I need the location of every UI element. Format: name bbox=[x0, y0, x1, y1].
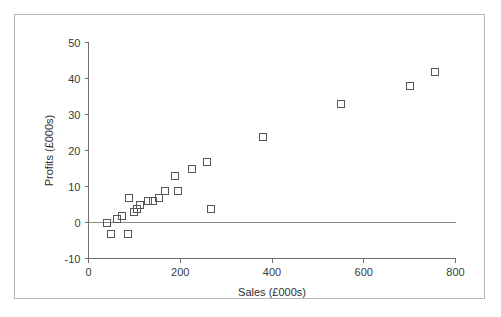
x-tick-label: 200 bbox=[171, 266, 189, 278]
data-point-marker bbox=[162, 188, 169, 195]
data-point-marker bbox=[407, 83, 414, 90]
data-point-marker bbox=[108, 231, 115, 238]
data-point-marker bbox=[204, 159, 211, 166]
data-point-marker bbox=[145, 198, 152, 205]
data-point-marker bbox=[126, 195, 133, 202]
y-axis-title: Profits (£000s) bbox=[43, 115, 55, 187]
y-tick-label: 50 bbox=[68, 37, 80, 49]
chart-canvas: -10010203040500200400600800Sales (£000s)… bbox=[0, 0, 501, 317]
data-point-marker bbox=[189, 166, 196, 173]
y-tick-label: 30 bbox=[68, 109, 80, 121]
y-tick-label: 40 bbox=[68, 73, 80, 85]
data-point-marker bbox=[175, 188, 182, 195]
data-point-marker bbox=[172, 173, 179, 180]
data-point-marker bbox=[208, 206, 215, 213]
x-tick-label: 0 bbox=[85, 266, 91, 278]
y-tick-label: 0 bbox=[74, 217, 80, 229]
y-tick-label: 10 bbox=[68, 181, 80, 193]
data-point-marker bbox=[432, 69, 439, 76]
x-tick-label: 800 bbox=[446, 266, 464, 278]
data-point-marker bbox=[125, 231, 132, 238]
y-tick-label: 20 bbox=[68, 145, 80, 157]
x-tick-label: 400 bbox=[263, 266, 281, 278]
x-axis-title: Sales (£000s) bbox=[238, 286, 306, 298]
y-tick-label: -10 bbox=[65, 253, 81, 265]
x-tick-label: 600 bbox=[355, 266, 373, 278]
data-point-marker bbox=[338, 101, 345, 108]
data-point-marker bbox=[260, 134, 267, 141]
scatter-plot: -10010203040500200400600800Sales (£000s)… bbox=[0, 0, 501, 317]
